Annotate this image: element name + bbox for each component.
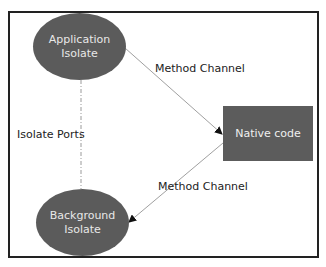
method-channel-label-bottom: Method Channel bbox=[158, 180, 248, 193]
background-isolate-label-line1: Background bbox=[50, 209, 116, 223]
application-isolate-node: Application Isolate bbox=[33, 13, 126, 80]
background-isolate-node: Background Isolate bbox=[36, 189, 129, 256]
native-code-label: Native code bbox=[235, 127, 301, 140]
method-channel-label-top: Method Channel bbox=[155, 62, 245, 75]
method-channel-arrow-app-to-native bbox=[125, 48, 222, 134]
isolate-ports-label: Isolate Ports bbox=[17, 128, 85, 141]
application-isolate-label-line2: Isolate bbox=[49, 47, 110, 61]
background-isolate-label-line2: Isolate bbox=[50, 223, 116, 237]
native-code-node: Native code bbox=[223, 106, 313, 161]
application-isolate-label-line1: Application bbox=[49, 33, 110, 47]
